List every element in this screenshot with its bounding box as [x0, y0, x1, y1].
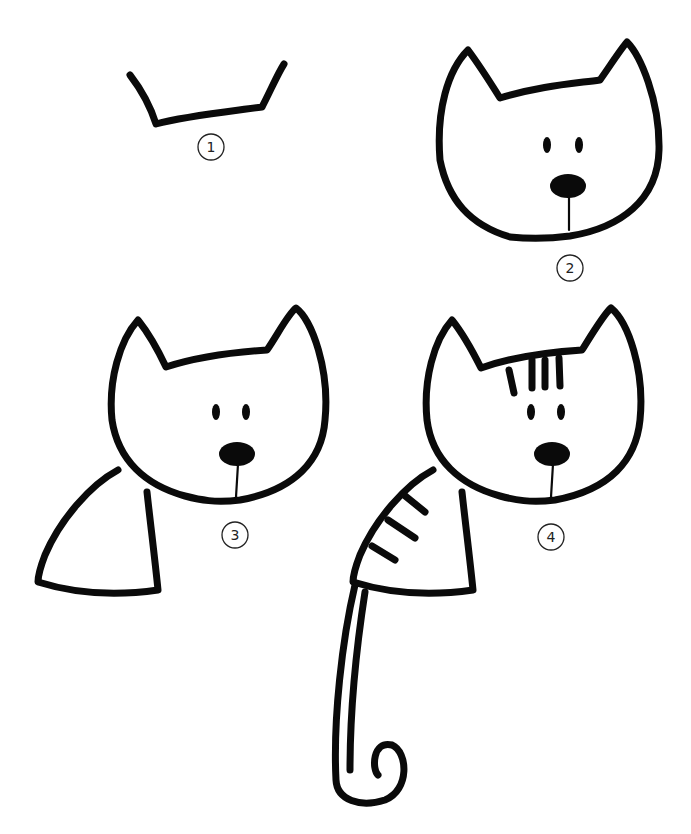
- step-3-number: 3: [231, 527, 240, 543]
- step-3-right-eye: [242, 404, 250, 420]
- body-stripe: [372, 546, 395, 560]
- step-1-number: 1: [207, 139, 216, 155]
- step-4-tail: [335, 585, 404, 803]
- step-2-left-eye: [543, 137, 551, 153]
- body-stripe: [404, 495, 425, 512]
- drawing-canvas: 1 2 3: [0, 0, 691, 834]
- step-4-drawing: [335, 308, 640, 803]
- step-4-number: 4: [547, 529, 556, 545]
- step-3-left-eye: [212, 404, 220, 420]
- step-3-head-outline: [111, 308, 326, 501]
- step-2-right-eye: [575, 137, 583, 153]
- step-4-left-eye: [527, 404, 535, 420]
- body-stripe: [388, 520, 415, 538]
- step-3-drawing: [38, 308, 326, 593]
- step-3-body-outline: [38, 470, 158, 593]
- forehead-stripe: [509, 370, 514, 393]
- step-4-body-outline: [353, 470, 473, 593]
- step-4-badge: 4: [538, 524, 564, 550]
- step-4-nose: [534, 442, 570, 466]
- step-3-nose: [219, 442, 255, 466]
- step-4-head-outline: [426, 308, 641, 501]
- step-4-mouth-line: [551, 464, 553, 497]
- step-1-head-outline: [130, 64, 284, 124]
- step-4-body-stripes: [372, 495, 425, 560]
- step-2-drawing: [439, 42, 659, 238]
- step-3-mouth-line: [236, 464, 238, 497]
- step-4-forehead-stripes: [509, 358, 560, 393]
- step-1-drawing: [130, 64, 284, 124]
- forehead-stripe: [559, 358, 560, 386]
- step-2-badge: 2: [557, 255, 583, 281]
- step-1-badge: 1: [198, 134, 224, 160]
- step-3-badge: 3: [222, 522, 248, 548]
- step-2-number: 2: [566, 260, 575, 276]
- step-2-nose: [550, 174, 586, 198]
- step-4-right-eye: [557, 404, 565, 420]
